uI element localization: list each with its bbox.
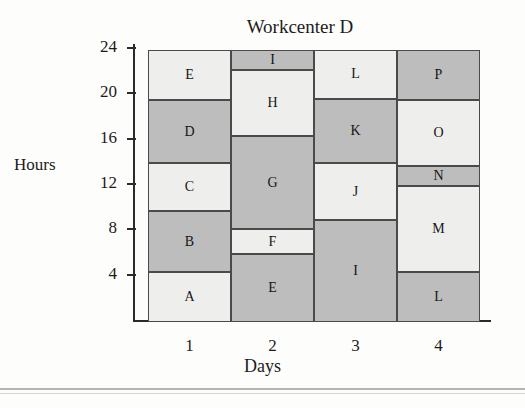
bar-segment-label: E bbox=[268, 281, 277, 295]
y-axis-tick-label-20: 20 bbox=[77, 83, 117, 100]
bar-column-day-3: IJKL bbox=[314, 46, 397, 322]
bar-segment-4-P[interactable]: P bbox=[397, 50, 480, 100]
y-axis-tick-24: 24 bbox=[127, 47, 136, 49]
bar-column-day-1: ABCDE bbox=[148, 46, 231, 322]
bar-segment-3-K[interactable]: K bbox=[314, 99, 397, 164]
y-axis-tick-16: 16 bbox=[127, 138, 136, 140]
bar-segment-label: O bbox=[433, 126, 443, 140]
y-axis-tick-label-12: 12 bbox=[77, 174, 117, 191]
x-axis-tick-label-2: 2 bbox=[231, 336, 314, 356]
bar-segment-label: N bbox=[433, 169, 443, 183]
y-axis-tick-label-4: 4 bbox=[77, 265, 117, 282]
bar-segment-4-M[interactable]: M bbox=[397, 186, 480, 272]
bar-segment-label: G bbox=[267, 176, 277, 190]
page-bottom-rule-2 bbox=[0, 393, 525, 394]
x-axis-label: Days bbox=[0, 356, 525, 377]
bar-segment-label: K bbox=[350, 124, 360, 138]
bar-segment-4-L[interactable]: L bbox=[397, 272, 480, 322]
y-axis-label: Hours bbox=[14, 155, 56, 175]
bar-segment-1-D[interactable]: D bbox=[148, 100, 231, 163]
bar-segment-label: H bbox=[267, 96, 277, 110]
bar-segment-label: I bbox=[270, 53, 275, 67]
y-axis-tick-12: 12 bbox=[127, 183, 136, 185]
bar-segment-2-H[interactable]: H bbox=[231, 70, 314, 136]
bar-segment-label: B bbox=[185, 235, 194, 249]
page-bottom-rule-1 bbox=[0, 388, 525, 390]
bar-segment-label: E bbox=[185, 68, 194, 82]
bar-segment-1-C[interactable]: C bbox=[148, 163, 231, 211]
bar-segment-4-N[interactable]: N bbox=[397, 166, 480, 186]
x-axis-tick-label-4: 4 bbox=[397, 336, 480, 356]
bar-segment-label: L bbox=[351, 67, 360, 81]
y-axis-tick-label-8: 8 bbox=[77, 219, 117, 236]
plot-area: 4812162024 ABCDEEFGHIIJKLLMNOP 1234 bbox=[133, 44, 493, 324]
x-axis-tick-label-1: 1 bbox=[148, 336, 231, 356]
y-axis-tick-4: 4 bbox=[127, 274, 136, 276]
stacked-bar-chart: Workcenter D Hours 4812162024 ABCDEEFGHI… bbox=[0, 0, 525, 388]
x-axis-tick-label-3: 3 bbox=[314, 336, 397, 356]
chart-title: Workcenter D bbox=[150, 16, 450, 38]
bar-segment-2-F[interactable]: F bbox=[231, 229, 314, 254]
y-axis-tick-8: 8 bbox=[127, 228, 136, 230]
bar-segment-label: J bbox=[353, 185, 358, 199]
bar-segment-2-I[interactable]: I bbox=[231, 50, 314, 70]
bar-segment-1-B[interactable]: B bbox=[148, 211, 231, 272]
bar-column-day-4: LMNOP bbox=[397, 46, 480, 322]
bar-segment-3-I[interactable]: I bbox=[314, 220, 397, 322]
bar-segment-1-A[interactable]: A bbox=[148, 272, 231, 322]
bar-segment-label: D bbox=[184, 125, 194, 139]
bar-segment-label: C bbox=[185, 180, 194, 194]
bar-segment-label: P bbox=[435, 68, 443, 82]
bar-segment-label: L bbox=[434, 290, 443, 304]
y-axis-tick-label-16: 16 bbox=[77, 129, 117, 146]
bar-segment-1-E[interactable]: E bbox=[148, 50, 231, 100]
bar-segment-label: A bbox=[184, 290, 194, 304]
bar-segment-3-L[interactable]: L bbox=[314, 50, 397, 99]
y-axis-tick-label-24: 24 bbox=[77, 38, 117, 55]
bar-segment-label: M bbox=[432, 222, 444, 236]
y-axis-tick-20: 20 bbox=[127, 92, 136, 94]
bar-segment-2-G[interactable]: G bbox=[231, 136, 314, 229]
bar-segment-label: F bbox=[269, 235, 277, 249]
bar-column-day-2: EFGHI bbox=[231, 46, 314, 322]
scanned-page: Workcenter D Hours 4812162024 ABCDEEFGHI… bbox=[0, 0, 525, 408]
bar-segment-label: I bbox=[353, 264, 358, 278]
bar-segment-3-J[interactable]: J bbox=[314, 163, 397, 220]
bar-segment-2-E[interactable]: E bbox=[231, 254, 314, 322]
bar-segment-4-O[interactable]: O bbox=[397, 100, 480, 166]
